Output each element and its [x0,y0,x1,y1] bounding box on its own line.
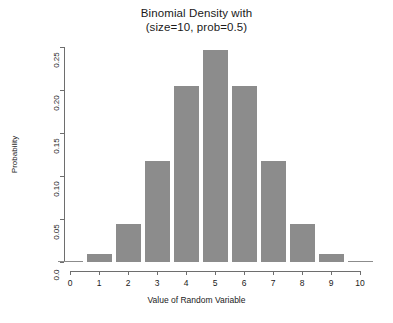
y-axis-title: Probability [8,47,22,262]
chart-title: Binomial Density with (size=10, prob=0.5… [0,6,393,34]
binomial-density-chart: Binomial Density with (size=10, prob=0.5… [0,0,393,323]
bars-layer [70,47,360,262]
bar [203,50,228,262]
chart-title-line-1: Binomial Density with [0,6,393,20]
y-axis-tick [60,47,64,48]
x-axis-tick [128,271,129,275]
bar [319,254,344,262]
x-axis-tick-label: 2 [118,278,138,288]
x-axis-tick [273,271,274,275]
x-axis-tick [215,271,216,275]
x-axis-tick-label: 0 [60,278,80,288]
y-axis-tick-label: 0.20 [52,90,61,116]
bar [290,224,315,262]
y-axis-tick [60,133,64,134]
x-axis-tick-label: 4 [176,278,196,288]
x-axis-tick-label: 7 [263,278,283,288]
x-axis-title: Value of Random Variable [0,295,393,305]
x-axis-tick [70,271,71,275]
y-axis-title-label: Probability [11,136,20,173]
x-axis-tick-label: 5 [205,278,225,288]
bar [116,224,141,262]
bar [145,161,170,262]
x-axis-tick-label: 9 [321,278,341,288]
x-axis-tick [331,271,332,275]
chart-title-line-2: (size=10, prob=0.5) [0,20,393,34]
x-axis-tick-label: 6 [234,278,254,288]
bar [58,261,83,262]
x-axis-tick [360,271,361,275]
y-axis-tick [60,262,64,263]
y-axis-tick-label: 0.10 [52,176,61,202]
y-axis-tick [60,90,64,91]
x-axis-tick-label: 10 [350,278,370,288]
bar [174,86,199,262]
y-axis-tick-label: 0.15 [52,133,61,159]
y-axis-tick [60,176,64,177]
x-axis-tick [302,271,303,275]
bar [232,86,257,262]
plot-area [70,47,360,262]
y-axis-tick [60,219,64,220]
y-axis-tick-label: 0.05 [52,219,61,245]
x-axis-tick-label: 3 [147,278,167,288]
x-axis-tick-label: 8 [292,278,312,288]
bar [87,254,112,262]
x-axis-tick-label: 1 [89,278,109,288]
x-axis-tick [244,271,245,275]
y-axis-line [64,47,65,262]
x-axis-tick [157,271,158,275]
bar [261,161,286,262]
x-axis-tick [186,271,187,275]
x-axis-tick [99,271,100,275]
y-axis-tick-label: 0.25 [52,47,61,73]
bar [348,261,373,262]
